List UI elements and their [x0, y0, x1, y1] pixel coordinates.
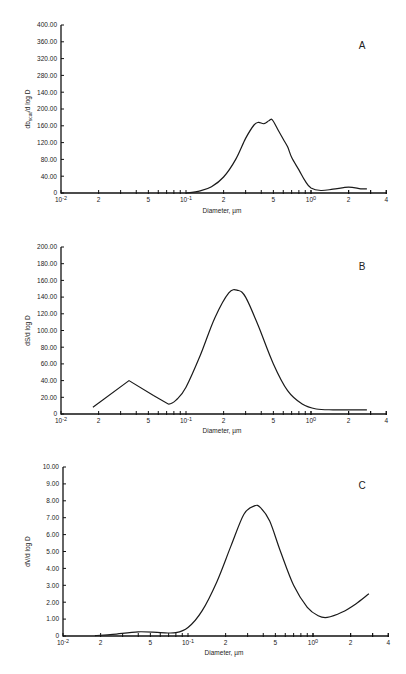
x-tick-label: 2	[222, 417, 226, 424]
x-tick-label: 2	[97, 196, 101, 203]
y-tick-label: 9.00	[46, 480, 59, 487]
x-tick-label: 100	[306, 195, 316, 204]
y-axis-title: dV/d log D	[24, 536, 32, 567]
y-tick-label: 20.00	[41, 394, 58, 401]
x-tick-label: 100	[308, 638, 318, 647]
y-tick-label: 2.00	[46, 599, 59, 606]
figure: 040.0080.00120.00160.00200.00140.00280.0…	[0, 0, 406, 674]
x-axis-title: Diameter, µm	[203, 427, 242, 435]
y-tick-label: 140.00	[37, 293, 57, 300]
y-tick-label: 40.00	[41, 173, 58, 180]
y-tick-label: 280.00	[37, 72, 57, 79]
x-tick-label: 5	[274, 639, 278, 646]
x-tick-label: 5	[149, 639, 153, 646]
y-tick-label: 160.00	[37, 277, 57, 284]
x-tick-label: 5	[147, 196, 151, 203]
x-tick-label: 10-1	[182, 638, 194, 647]
x-tick-label: 2	[349, 639, 353, 646]
y-tick-label: 160.00	[37, 122, 57, 129]
data-curve-c	[95, 505, 369, 635]
chart-panel-c: 01.002.003.004.005.006.007.008.009.0010.…	[24, 463, 390, 657]
data-curve-b	[93, 290, 367, 410]
x-tick-label: 2	[97, 417, 101, 424]
x-axis-title: Diameter, µm	[205, 649, 244, 657]
panel-letter: B	[359, 261, 366, 272]
x-tick-label: 2	[347, 196, 351, 203]
y-tick-label: 3.00	[46, 582, 59, 589]
y-tick-label: 10.00	[43, 463, 60, 470]
y-tick-label: 180.00	[37, 260, 57, 267]
y-tick-label: 6.00	[46, 531, 59, 538]
y-tick-label: 140.00	[37, 89, 57, 96]
y-tick-label: 8.00	[46, 497, 59, 504]
x-tick-label: 10-1	[180, 416, 192, 425]
panel-letter: C	[358, 480, 365, 491]
y-tick-label: 120.00	[37, 139, 57, 146]
y-axis-title: dbscat/d log D	[24, 89, 33, 128]
x-tick-label: 10-2	[55, 195, 67, 204]
x-tick-label: 4	[384, 196, 388, 203]
y-tick-label: 4.00	[46, 565, 59, 572]
y-tick-label: 60.00	[41, 360, 58, 367]
x-tick-label: 2	[99, 639, 103, 646]
x-tick-label: 10-2	[55, 416, 67, 425]
y-tick-label: 200.00	[37, 243, 57, 250]
chart-panel-a: 040.0080.00120.00160.00200.00140.00280.0…	[24, 21, 388, 215]
y-tick-label: 200.00	[37, 105, 57, 112]
y-tick-label: 360.00	[37, 38, 57, 45]
y-tick-label: 320.00	[37, 55, 57, 62]
x-tick-label: 5	[147, 417, 151, 424]
x-tick-label: 4	[384, 417, 388, 424]
x-tick-label: 4	[386, 639, 390, 646]
chart-panel-b: 020.0040.0060.0080.00100.00120.00140.001…	[24, 243, 388, 435]
panel-letter: A	[359, 40, 366, 51]
x-tick-label: 2	[347, 417, 351, 424]
x-tick-label: 10-1	[180, 195, 192, 204]
y-tick-label: 1.00	[46, 615, 59, 622]
y-tick-label: 400.00	[37, 21, 57, 28]
y-tick-label: 5.00	[46, 548, 59, 555]
x-tick-label: 5	[272, 417, 276, 424]
y-tick-label: 40.00	[41, 377, 58, 384]
x-tick-label: 100	[306, 416, 316, 425]
y-tick-label: 80.00	[41, 156, 58, 163]
y-tick-label: 7.00	[46, 514, 59, 521]
y-tick-label: 100.00	[37, 327, 57, 334]
x-tick-label: 5	[272, 196, 276, 203]
x-tick-label: 2	[222, 196, 226, 203]
x-tick-label: 2	[224, 639, 228, 646]
y-axis-title: dS/d log D	[24, 315, 32, 346]
y-tick-label: 120.00	[37, 310, 57, 317]
y-tick-label: 80.00	[41, 344, 58, 351]
x-axis-title: Diameter, µm	[203, 207, 242, 215]
data-curve-a	[186, 119, 367, 193]
x-tick-label: 10-2	[57, 638, 69, 647]
